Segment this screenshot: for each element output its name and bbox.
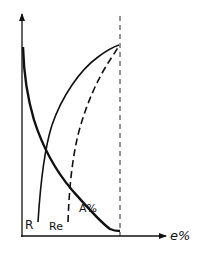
- x-axis-label: e%: [170, 228, 190, 243]
- label-a-percent: A%: [79, 202, 97, 215]
- label-re: Re: [49, 220, 63, 233]
- label-r: R: [25, 218, 33, 232]
- curve-elongation-a: [23, 47, 120, 231]
- diagram-canvas: R Re A% e%: [0, 0, 197, 253]
